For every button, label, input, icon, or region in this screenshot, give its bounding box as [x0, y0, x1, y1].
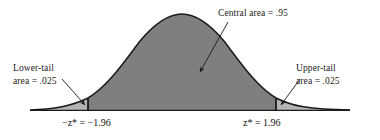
axis-tick-label-left: −z* = −1.96: [62, 117, 111, 128]
lower-tail-label-line2: area = .025: [13, 75, 57, 88]
normal-curve-figure: Central area = .95 Lower-tail area = .02…: [0, 0, 380, 140]
upper-tail-label: Upper-tail area = .025: [296, 62, 340, 87]
lower-tail-label: Lower-tail area = .025: [13, 62, 57, 87]
lower-tail-arrow: [62, 79, 85, 105]
axis-tick-label-left-text: −z* = −1.96: [62, 117, 111, 128]
lower-tail-label-line1: Lower-tail: [13, 62, 57, 75]
axis-tick-label-right-text: z* = 1.96: [243, 117, 281, 128]
upper-tail-label-line2: area = .025: [296, 75, 340, 88]
upper-tail-label-line1: Upper-tail: [296, 62, 340, 75]
central-area-label: Central area = .95: [218, 7, 288, 20]
axis-tick-label-right: z* = 1.96: [243, 117, 281, 128]
central-area-label-line1: Central area = .95: [218, 7, 288, 20]
